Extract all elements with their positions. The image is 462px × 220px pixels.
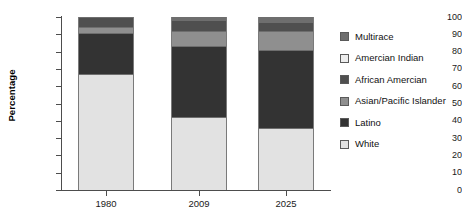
- legend-item: White: [340, 134, 460, 156]
- legend-swatch-icon: [340, 32, 349, 41]
- bar-segment: [172, 46, 226, 117]
- bar-segment: [79, 27, 133, 32]
- legend-item: Multirace: [340, 26, 460, 48]
- bar-segment: [172, 31, 226, 47]
- y-axis-tick-label: 10: [410, 168, 462, 177]
- x-axis-tick-label: 1980: [76, 199, 136, 209]
- bar-segment: [172, 17, 226, 20]
- legend-item: Amercian Indian: [340, 48, 460, 70]
- bar-segment: [259, 50, 313, 128]
- x-axis-tick-label: 2025: [256, 199, 316, 209]
- bar-2009: [171, 17, 227, 190]
- bar-1980: [78, 17, 134, 190]
- legend-swatch-icon: [340, 118, 349, 127]
- legend-swatch-icon: [340, 75, 349, 84]
- legend-item-label: African Amercian: [355, 75, 427, 85]
- x-axis-tick: [286, 190, 287, 196]
- legend-swatch-icon: [340, 54, 349, 63]
- legend-item-label: Asian/Pacific Islander: [355, 96, 446, 106]
- y-axis-title-label: Percentage: [6, 69, 17, 121]
- bar-segment: [172, 20, 226, 30]
- bar-2025: [258, 17, 314, 190]
- legend-item-label: White: [355, 139, 379, 149]
- bar-segment: [259, 128, 313, 190]
- x-axis-line: [61, 190, 331, 191]
- legend-item: Latino: [340, 112, 460, 134]
- legend-item-label: Latino: [355, 118, 381, 128]
- bar-segment: [172, 117, 226, 190]
- legend-item-label: Amercian Indian: [355, 53, 424, 63]
- bar-segment: [259, 31, 313, 50]
- legend-swatch-icon: [340, 97, 349, 106]
- legend-item: Asian/Pacific Islander: [340, 91, 460, 113]
- legend-item-label: Multirace: [355, 32, 394, 42]
- stacked-bar-chart: Percentage 0102030405060708090100 198020…: [0, 0, 462, 220]
- chart-legend: MultiraceAmercian IndianAfrican Amercian…: [340, 26, 460, 155]
- legend-swatch-icon: [340, 140, 349, 149]
- bar-segment: [79, 33, 133, 75]
- bar-segment: [79, 17, 133, 27]
- x-axis-tick: [106, 190, 107, 196]
- bar-segment: [79, 74, 133, 190]
- x-axis-tick: [199, 190, 200, 196]
- legend-item: African Amercian: [340, 69, 460, 91]
- y-axis-tick: [56, 190, 62, 191]
- y-axis-title: Percentage: [2, 0, 20, 190]
- bar-segment: [259, 17, 313, 22]
- bar-segment: [259, 22, 313, 31]
- x-axis-tick-label: 2009: [169, 199, 229, 209]
- y-axis-tick-label: 100: [410, 13, 462, 22]
- y-axis-tick-label: 0: [410, 186, 462, 195]
